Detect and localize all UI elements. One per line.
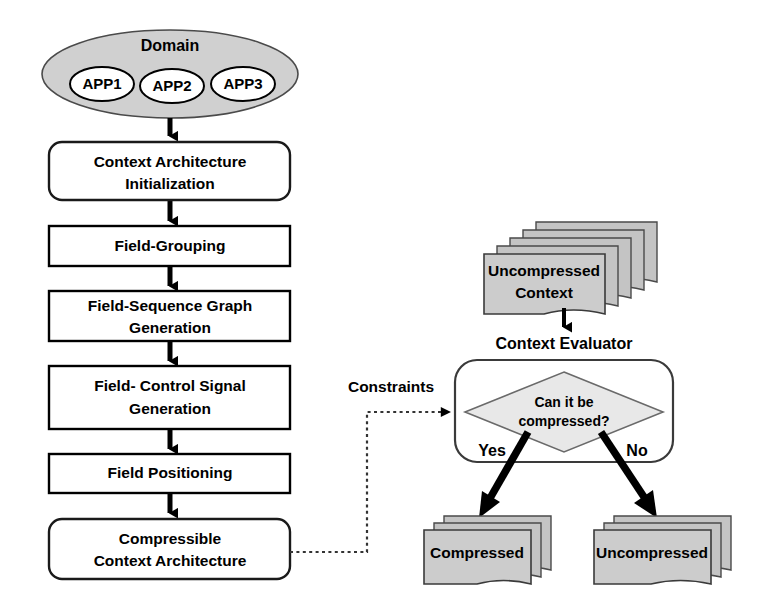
step-fcs-box[interactable] (49, 366, 290, 429)
step-field-control-signal-generation[interactable]: Field- Control Signal Generation (49, 366, 290, 429)
domain-label: Domain (141, 37, 200, 54)
app1-label: APP1 (82, 75, 121, 92)
step-init-line2: Initialization (125, 175, 215, 192)
branch-yes-label: Yes (478, 442, 506, 459)
step-compressible-context-architecture[interactable]: Compressible Context Architecture (49, 519, 290, 579)
stack-input-line1: Uncompressed (488, 262, 600, 279)
branch-no-label: No (626, 442, 648, 459)
step-cca-line2: Context Architecture (94, 552, 247, 569)
stack-compressed-output[interactable]: Compressed (424, 516, 551, 584)
app3-label: APP3 (223, 75, 262, 92)
step-init-line1: Context Architecture (94, 153, 247, 170)
context-evaluator-group[interactable]: Context Evaluator Can it be compressed? … (455, 335, 673, 462)
app2-label: APP2 (152, 77, 191, 94)
step-fsg-line2: Generation (129, 319, 211, 336)
stack-uncompressed-output[interactable]: Uncompressed (594, 516, 731, 584)
stack-uncompressed-label: Uncompressed (596, 544, 708, 561)
flowchart-svg: Domain APP1 APP2 APP3 Context Architectu… (0, 0, 766, 608)
step-positioning-label: Field Positioning (108, 464, 233, 481)
decision-line1: Can it be (534, 394, 593, 410)
step-fcs-line1: Field- Control Signal (94, 377, 246, 394)
diagram-canvas: Domain APP1 APP2 APP3 Context Architectu… (0, 0, 766, 608)
step-field-positioning[interactable]: Field Positioning (49, 454, 290, 493)
step-cca-line1: Compressible (119, 530, 222, 547)
stack-uncompressed-context[interactable]: Uncompressed Context (484, 222, 657, 314)
step-cca-box[interactable] (49, 519, 290, 579)
domain-group: Domain APP1 APP2 APP3 (42, 30, 298, 118)
decision-line2: compressed? (518, 413, 609, 429)
step-fsg-line1: Field-Sequence Graph (88, 297, 253, 314)
stack-input-line2: Context (515, 284, 573, 301)
step-grouping-label: Field-Grouping (114, 237, 225, 254)
evaluator-label: Context Evaluator (496, 335, 633, 352)
constraints-label: Constraints (348, 378, 434, 395)
constraints-connector: Constraints (290, 378, 450, 552)
step-field-sequence-graph-generation[interactable]: Field-Sequence Graph Generation (49, 291, 290, 341)
step-field-grouping[interactable]: Field-Grouping (49, 226, 290, 266)
stack-compressed-label: Compressed (430, 544, 524, 561)
step-fcs-line2: Generation (129, 400, 211, 417)
step-context-architecture-initialization[interactable]: Context Architecture Initialization (49, 142, 290, 200)
